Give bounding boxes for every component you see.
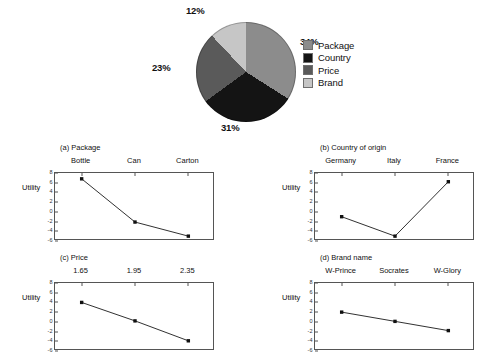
y-tick-mark	[315, 182, 318, 183]
y-tick-label: -4	[308, 339, 315, 345]
pie-slice-label-brand: 12%	[186, 5, 204, 16]
x-tick-label: W-Prince	[325, 266, 356, 275]
y-tick-mark	[315, 202, 318, 203]
y-tick-label: -2	[308, 329, 315, 335]
y-axis-label: Utility	[22, 183, 40, 192]
x-tick-mark	[81, 283, 82, 286]
data-point-marker	[447, 329, 450, 332]
x-axis-labels: GermanyItalyFrance	[314, 156, 474, 168]
legend-label-package: Package	[318, 41, 354, 51]
y-tick-mark	[315, 173, 318, 174]
y-tick-mark	[315, 351, 318, 352]
y-tick-mark	[55, 351, 58, 352]
y-axis-label: Utility	[22, 293, 40, 302]
y-tick-mark	[55, 202, 58, 203]
x-axis-labels: 1.651.952.35	[54, 266, 214, 278]
data-point-marker	[393, 320, 396, 323]
y-tick-mark	[315, 331, 318, 332]
y-tick-mark	[315, 312, 318, 313]
plot-area: 86420-2-4-6	[314, 172, 474, 240]
data-line	[82, 179, 189, 236]
legend-item-country: Country	[303, 52, 393, 65]
pie-chart	[196, 22, 296, 122]
y-tick-mark	[315, 302, 318, 303]
data-point-marker	[340, 215, 343, 218]
plot-area: 86420-2-4-6	[54, 282, 214, 350]
y-tick-mark	[55, 331, 58, 332]
x-axis-labels: BottleCanCarton	[54, 156, 214, 168]
data-point-marker	[340, 310, 343, 313]
subplot-package: (a) Package Utility BottleCanCarton 8642…	[22, 143, 227, 251]
y-tick-mark	[55, 211, 58, 212]
x-tick-label: 2.35	[180, 266, 195, 275]
y-tick-mark	[315, 231, 318, 232]
y-tick-label: -6	[308, 238, 315, 244]
plot-area: 86420-2-4-6	[54, 172, 214, 240]
y-tick-label: -4	[48, 339, 55, 345]
x-tick-label: Can	[127, 156, 141, 165]
y-tick-mark	[55, 241, 58, 242]
x-tick-mark	[395, 283, 396, 286]
x-tick-mark	[395, 173, 396, 176]
y-tick-mark	[315, 192, 318, 193]
x-tick-mark	[341, 283, 342, 286]
data-point-marker	[447, 180, 450, 183]
legend-swatch-package	[303, 40, 313, 50]
x-tick-label: Carton	[176, 156, 199, 165]
x-tick-mark	[188, 283, 189, 286]
y-tick-mark	[55, 283, 58, 284]
x-tick-mark	[448, 283, 449, 286]
data-point-marker	[80, 301, 83, 304]
x-tick-mark	[135, 283, 136, 286]
plot-area: 86420-2-4-6	[314, 282, 474, 350]
x-axis-labels: W-PrinceSocratesW-Glory	[314, 266, 474, 278]
y-tick-label: -4	[308, 229, 315, 235]
x-tick-mark	[81, 173, 82, 176]
y-tick-mark	[55, 292, 58, 293]
y-tick-mark	[315, 321, 318, 322]
legend-item-package: Package	[303, 39, 393, 52]
y-tick-label: -6	[48, 238, 55, 244]
x-tick-mark	[188, 173, 189, 176]
x-tick-label: 1.95	[127, 266, 142, 275]
subplot-title: (a) Package	[60, 143, 100, 152]
y-tick-mark	[55, 341, 58, 342]
pie-slice-label-price: 23%	[152, 62, 170, 73]
y-axis-label: Utility	[282, 293, 300, 302]
y-tick-mark	[315, 211, 318, 212]
data-point-marker	[187, 234, 190, 237]
pie-chart-section: 12% 34% 31% 23% Package Country Price Br…	[0, 0, 485, 138]
data-point-marker	[133, 319, 136, 322]
subplot-country: (b) Country of origin Utility GermanyIta…	[282, 143, 485, 251]
subplot-price: (c) Price Utility 1.651.952.35 86420-2-4…	[22, 253, 227, 361]
data-point-marker	[393, 234, 396, 237]
x-tick-label: Germany	[325, 156, 356, 165]
y-tick-mark	[55, 312, 58, 313]
legend-label-brand: Brand	[318, 78, 343, 88]
y-tick-mark	[315, 241, 318, 242]
subplot-brand: (d) Brand name Utility W-PrinceSocratesW…	[282, 253, 485, 361]
legend-label-country: Country	[318, 53, 351, 63]
y-tick-mark	[315, 283, 318, 284]
legend-item-price: Price	[303, 64, 393, 77]
data-line	[342, 182, 449, 236]
y-axis-label: Utility	[282, 183, 300, 192]
y-tick-mark	[55, 192, 58, 193]
y-tick-mark	[315, 341, 318, 342]
y-tick-label: -6	[308, 348, 315, 354]
series-line	[315, 283, 473, 349]
y-tick-mark	[315, 221, 318, 222]
y-tick-mark	[55, 182, 58, 183]
data-point-marker	[133, 220, 136, 223]
data-point-marker	[80, 177, 83, 180]
x-tick-label: W-Glory	[434, 266, 461, 275]
series-line	[55, 173, 213, 239]
y-tick-label: -2	[308, 219, 315, 225]
legend-item-brand: Brand	[303, 77, 393, 90]
legend-swatch-brand	[303, 78, 313, 88]
x-tick-label: France	[436, 156, 459, 165]
x-tick-label: Italy	[387, 156, 401, 165]
subplot-title: (c) Price	[60, 253, 88, 262]
pie-legend: Package Country Price Brand	[303, 39, 393, 89]
x-tick-label: 1.65	[73, 266, 88, 275]
